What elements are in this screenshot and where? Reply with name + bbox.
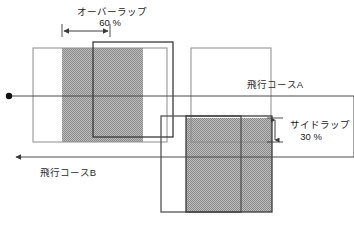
sidelap-label: サイドラップ: [290, 119, 350, 130]
diagram-canvas: オーバーラップ 60 % サイドラップ 30 % 飛行コースA 飛行コースB: [0, 0, 354, 252]
flight-course-b-label: 飛行コースB: [40, 167, 96, 178]
overlap-sidelap-diagram: オーバーラップ 60 % サイドラップ 30 % 飛行コースA 飛行コースB: [0, 0, 354, 252]
shaded-region-course-a: [62, 48, 143, 142]
overlap-value: 60 %: [99, 17, 121, 28]
start-point-dot: [6, 93, 12, 99]
flight-course-a-label: 飛行コースA: [247, 79, 304, 90]
sidelap-value: 30 %: [300, 131, 322, 142]
shaded-region-course-b: [186, 118, 272, 212]
overlap-label: オーバーラップ: [77, 6, 147, 17]
